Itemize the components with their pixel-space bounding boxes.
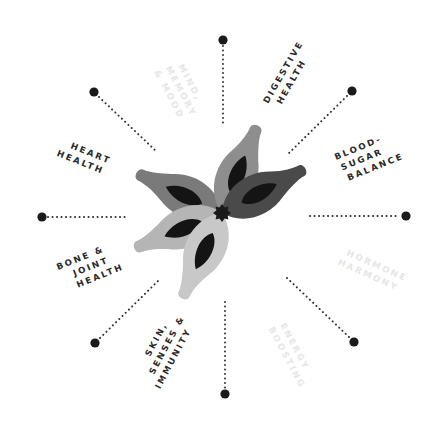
dot-icon bbox=[218, 35, 227, 44]
benefit-wheel-diagram: MIND, MEMORY & MOOD DIGESTIVE HEALTH BLO… bbox=[0, 0, 437, 426]
spoke-line-bottom-left bbox=[100, 281, 158, 338]
spoke-line-top-right bbox=[287, 96, 347, 155]
label-heart-health: HEART HEALTH bbox=[55, 137, 112, 177]
dot-icon bbox=[37, 212, 46, 221]
label-blood-sugar-balance: BLOOD- SUGAR BALANCE bbox=[333, 129, 405, 185]
dot-icon bbox=[89, 87, 98, 96]
label-digestive-health: DIGESTIVE HEALTH bbox=[261, 39, 315, 111]
label-bone-joint-health: BONE & JOINT HEALTH bbox=[55, 239, 125, 294]
label-hormone-harmony: HORMONE HARMONY bbox=[337, 246, 409, 294]
star-icon bbox=[213, 204, 231, 222]
label-energy-boosting: ENERGY BOOSTING bbox=[267, 319, 318, 390]
label-skin-senses-immunity: SKIN, SENSES & IMMUNITY bbox=[132, 308, 198, 391]
dot-icon bbox=[220, 389, 229, 398]
dot-icon bbox=[401, 211, 410, 220]
dot-icon bbox=[347, 86, 356, 95]
spoke-line-bottom-right bbox=[285, 276, 349, 337]
label-mind-memory-mood: MIND, MEMORY & MOOD bbox=[152, 57, 209, 124]
dot-icon bbox=[349, 337, 358, 346]
dot-icon bbox=[90, 338, 99, 347]
spoke-line-top-left bbox=[99, 97, 156, 151]
